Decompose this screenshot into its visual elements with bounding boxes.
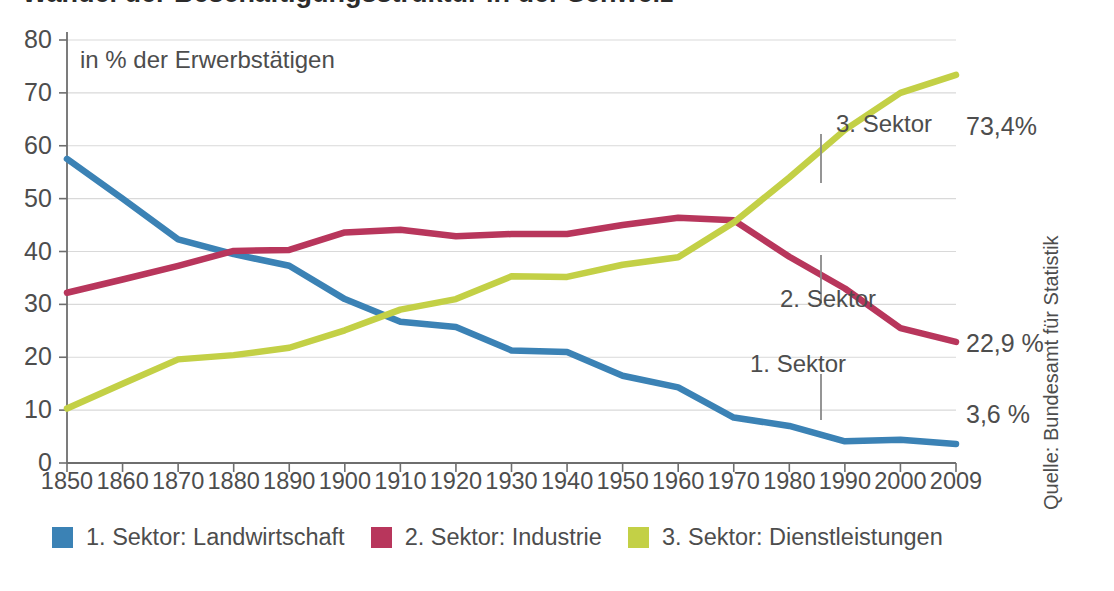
x-axis-tick-label: 2009 — [920, 470, 992, 494]
series-annotation-label: 3. Sektor — [836, 110, 932, 138]
y-axis-tick-label: 70 — [0, 80, 52, 105]
legend-item-label: 1. Sektor: Landwirtschaft — [86, 524, 345, 551]
plot-canvas — [0, 0, 1114, 591]
chart-page: Wandel der Beschäftigungsstruktur in der… — [0, 0, 1114, 591]
chart-legend: 1. Sektor: Landwirtschaft2. Sektor: Indu… — [52, 524, 969, 551]
y-axis-tick-label: 10 — [0, 397, 52, 422]
legend-item-label: 2. Sektor: Industrie — [405, 524, 602, 551]
line-chart: 80706050403020100 1850186018701880189019… — [0, 0, 1114, 591]
y-axis-tick-label: 60 — [0, 133, 52, 158]
series-end-value: 73,4% — [966, 112, 1037, 141]
series-annotation-label: 1. Sektor — [750, 350, 846, 378]
chart-subtitle: in % der Erwerbstätigen — [80, 46, 335, 74]
series-end-value: 22,9 % — [966, 329, 1044, 358]
legend-color-swatch — [52, 527, 73, 548]
legend-color-swatch — [628, 527, 649, 548]
legend-color-swatch — [371, 527, 392, 548]
y-axis-tick-label: 40 — [0, 239, 52, 264]
legend-item[interactable]: 3. Sektor: Dienstleistungen — [628, 524, 943, 551]
legend-item[interactable]: 1. Sektor: Landwirtschaft — [52, 524, 345, 551]
series-end-value: 3,6 % — [966, 400, 1030, 429]
series-annotation-label: 2. Sektor — [780, 285, 876, 313]
y-axis-tick-label: 50 — [0, 186, 52, 211]
legend-item[interactable]: 2. Sektor: Industrie — [371, 524, 602, 551]
source-note: Quelle: Bundesamt für Statistik — [1040, 190, 1063, 510]
y-axis-tick-label: 30 — [0, 291, 52, 316]
y-axis-tick-label: 80 — [0, 27, 52, 52]
y-axis-tick-label: 20 — [0, 344, 52, 369]
legend-item-label: 3. Sektor: Dienstleistungen — [662, 524, 943, 551]
series-lines — [67, 75, 956, 444]
